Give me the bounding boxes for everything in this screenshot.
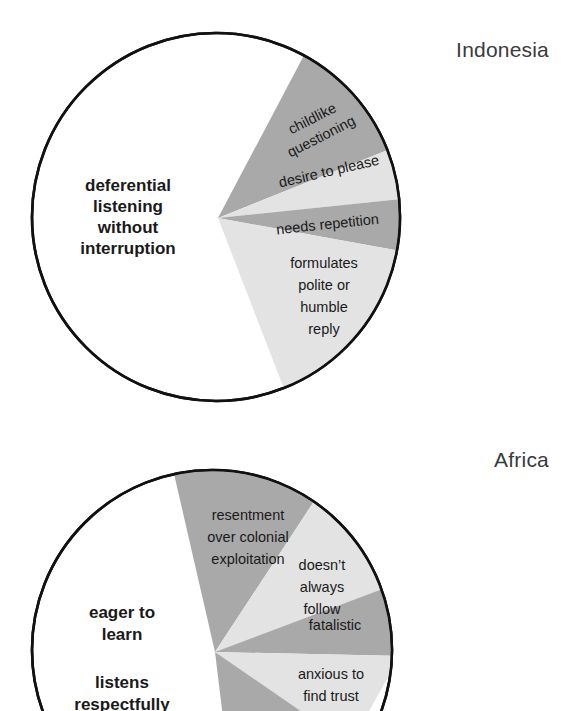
panel-africa: Africa (0, 425, 563, 711)
wedge-label-doesnt-always-follow: doesn’t always follow (299, 557, 346, 617)
wedge-label-line-1: resentment (212, 507, 285, 523)
pie-diagram-africa: eager to learn listens respectfully rese… (0, 425, 563, 711)
core-label-line-4: interruption (80, 239, 175, 258)
wedge-label-line-2: over colonial (207, 529, 288, 545)
wedge-label-line-3: humble (300, 299, 348, 315)
core-label-line-1: deferential (85, 176, 171, 195)
core-label-a-line-1: eager to (89, 603, 155, 622)
wedge-label-line-1: doesn’t (299, 557, 346, 573)
wedge-label-line-4: reply (308, 321, 340, 337)
core-label-a-line-2: learn (102, 625, 143, 644)
wedge-label-line-3: follow (303, 601, 341, 617)
wedge-label-resentment: resentment over colonial exploitation (207, 507, 288, 567)
pie-diagram-indonesia: deferential listening without interrupti… (0, 0, 563, 425)
wedge-label-line-1: formulates (290, 255, 358, 271)
wedge-label-line-2: always (300, 579, 344, 595)
core-label-line-2: listening (93, 197, 163, 216)
core-label-b-line-1: listens (95, 673, 149, 692)
core-label-line-3: without (97, 218, 159, 237)
wedge-label-fatalistic: fatalistic (309, 617, 361, 633)
wedge-label-line-2: find trust (303, 688, 359, 704)
panel-indonesia: Indonesia (0, 0, 563, 425)
wedge-label-line-1: fatalistic (309, 617, 361, 633)
wedge-label-line-1: anxious to (298, 666, 364, 682)
core-label-b-line-2: respectfully (74, 695, 170, 711)
page-root: Indonesia (0, 0, 563, 711)
wedge-label-line-3: exploitation (211, 551, 284, 567)
wedge-label-line-2: polite or (298, 277, 350, 293)
